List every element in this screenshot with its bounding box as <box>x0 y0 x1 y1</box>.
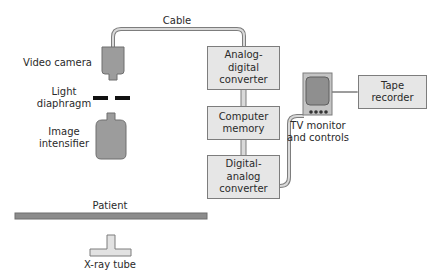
digital-analog-converter-box: Digital- analog converter <box>207 155 280 199</box>
adc-line-1: Analog- <box>219 49 267 62</box>
tv-monitor-line-2: and controls <box>287 132 349 144</box>
memory-line-1: Computer <box>219 111 269 124</box>
tv-monitor-label: TV monitor and controls <box>287 120 349 144</box>
adc-line-3: converter <box>219 74 267 87</box>
analog-digital-converter-box: Analog- digital converter <box>207 46 280 90</box>
dac-line-3: converter <box>219 183 267 196</box>
light-diaphragm-label: Light diaphragm <box>34 86 94 110</box>
adc-line-2: digital <box>219 62 267 75</box>
tv-monitor-line-1: TV monitor <box>287 120 349 132</box>
cable-label: Cable <box>159 15 195 27</box>
xray-tube-label: X-ray tube <box>80 259 140 271</box>
tape-line-1: Tape <box>371 80 413 93</box>
patient-label: Patient <box>90 200 130 212</box>
dac-line-1: Digital- <box>219 158 267 171</box>
dac-line-2: analog <box>219 171 267 184</box>
tape-line-2: recorder <box>371 92 413 105</box>
memory-line-2: memory <box>219 123 269 136</box>
tape-recorder-box: Tape recorder <box>358 75 427 109</box>
light-diaphragm-line-1: Light <box>34 86 94 98</box>
video-camera-label: Video camera <box>18 57 92 69</box>
image-intensifier-label: Image intensifier <box>36 126 92 150</box>
image-intensifier-line-1: Image <box>36 126 92 138</box>
light-diaphragm-line-2: diaphragm <box>34 98 94 110</box>
computer-memory-box: Computer memory <box>207 106 280 140</box>
image-intensifier-line-2: intensifier <box>36 138 92 150</box>
